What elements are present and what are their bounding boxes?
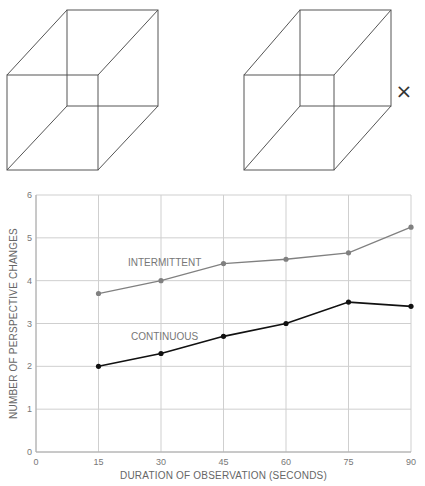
data-point xyxy=(221,261,226,266)
y-tick-label: 1 xyxy=(27,404,32,414)
y-tick-label: 6 xyxy=(27,190,32,200)
x-mark-label: × xyxy=(396,79,413,103)
y-tick-label: 0 xyxy=(27,447,32,457)
data-point xyxy=(158,278,163,283)
data-point xyxy=(96,291,101,296)
x-tick-label: 75 xyxy=(343,457,353,467)
x-tick-label: 15 xyxy=(93,457,103,467)
x-axis-label: DURATION OF OBSERVATION (SECONDS) xyxy=(120,470,327,481)
data-point xyxy=(158,351,163,356)
necker-cube-right xyxy=(244,10,391,170)
line-chart: 01234560153045607590DURATION OF OBSERVAT… xyxy=(8,190,416,481)
data-point xyxy=(283,257,288,262)
data-point xyxy=(221,334,226,339)
data-point xyxy=(96,364,101,369)
data-point xyxy=(346,250,351,255)
y-tick-label: 5 xyxy=(27,233,32,243)
figure-canvas: × 01234560153045607590DURATION OF OBSERV… xyxy=(0,0,425,486)
x-tick-label: 30 xyxy=(156,457,166,467)
data-point xyxy=(346,299,351,304)
series-label-continuous: CONTINUOUS xyxy=(131,331,199,342)
data-point xyxy=(408,304,413,309)
x-tick-label: 60 xyxy=(281,457,291,467)
y-axis-label: NUMBER OF PERSPECTIVE CHANGES xyxy=(8,228,19,419)
y-tick-label: 4 xyxy=(27,276,32,286)
data-point xyxy=(408,225,413,230)
x-tick-label: 90 xyxy=(406,457,416,467)
x-tick-label: 0 xyxy=(33,457,38,467)
y-tick-label: 2 xyxy=(27,361,32,371)
y-tick-label: 3 xyxy=(27,319,32,329)
series-label-intermittent: INTERMITTENT xyxy=(128,257,201,268)
necker-cube-left xyxy=(7,10,158,170)
x-tick-label: 45 xyxy=(218,457,228,467)
data-point xyxy=(283,321,288,326)
